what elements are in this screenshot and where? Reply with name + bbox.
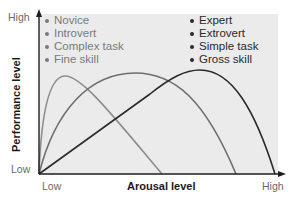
legend-item: Complex task bbox=[45, 40, 124, 53]
legend-item: Expert bbox=[190, 14, 258, 27]
legend-item: Simple task bbox=[190, 40, 258, 53]
arousal-performance-chart: High Low Low High Arousal level Performa… bbox=[0, 0, 291, 201]
y-high-label: High bbox=[8, 11, 30, 23]
bullet-icon bbox=[190, 19, 194, 23]
legend-item: Introvert bbox=[45, 27, 124, 40]
legend-item: Gross skill bbox=[190, 53, 258, 66]
x-axis-arrow-icon bbox=[278, 171, 286, 177]
legend-item: Novice bbox=[45, 14, 124, 27]
legend-item: Fine skill bbox=[45, 53, 124, 66]
y-axis-title: Performance level bbox=[10, 32, 22, 152]
y-axis-arrow-icon bbox=[36, 9, 42, 17]
x-high-label: High bbox=[262, 180, 284, 192]
legend-left-group: Novice Introvert Complex task Fine skill bbox=[45, 14, 124, 66]
bullet-icon bbox=[190, 32, 194, 36]
legend-right-group: Expert Extrovert Simple task Gross skill bbox=[190, 14, 258, 66]
bullet-icon bbox=[190, 45, 194, 49]
y-low-label: Low bbox=[11, 163, 30, 175]
bullet-icon bbox=[190, 58, 194, 62]
bullet-icon bbox=[45, 58, 49, 62]
bullet-icon bbox=[45, 19, 49, 23]
bullet-icon bbox=[45, 32, 49, 36]
legend-item: Extrovert bbox=[190, 27, 258, 40]
bullet-icon bbox=[45, 45, 49, 49]
x-axis-title: Arousal level bbox=[127, 180, 195, 192]
x-low-label: Low bbox=[42, 180, 61, 192]
